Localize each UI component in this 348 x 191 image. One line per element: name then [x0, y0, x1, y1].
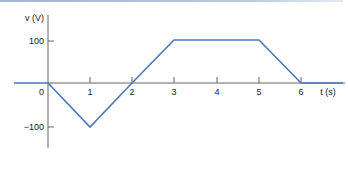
x-tick-label-0: 0 — [39, 87, 44, 97]
x-tick-label-1: 1 — [87, 87, 92, 97]
x-tick-label-5: 5 — [256, 87, 261, 97]
x-tick-label-3: 3 — [171, 87, 176, 97]
y-tick-label-100: 100 — [29, 36, 44, 46]
voltage-time-chart: v (V) 100 −100 0 1 2 3 4 5 6 t (s) — [0, 0, 348, 191]
y-tick-label-neg100: −100 — [24, 122, 44, 132]
x-tick-label-2: 2 — [129, 87, 134, 97]
x-tick-label-4: 4 — [214, 87, 219, 97]
x-ticks — [90, 77, 301, 83]
y-axis-label: v (V) — [25, 13, 44, 23]
x-axis-label: t (s) — [320, 87, 336, 97]
x-tick-label-6: 6 — [298, 87, 303, 97]
